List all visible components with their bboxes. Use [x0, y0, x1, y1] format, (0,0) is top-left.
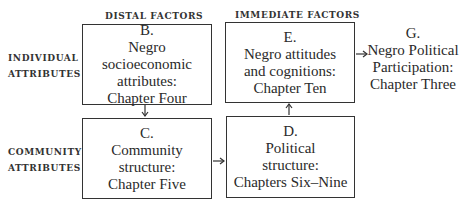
arrow-e-to-g-icon — [356, 51, 367, 57]
edge-layer — [0, 0, 463, 210]
arrow-b-to-c-icon — [142, 105, 148, 116]
arrow-d-to-e-icon — [286, 104, 292, 115]
arrow-c-to-d-icon — [213, 158, 224, 164]
